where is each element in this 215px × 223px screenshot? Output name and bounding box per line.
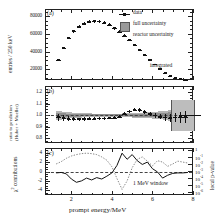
- axis-tick: [122, 9, 123, 12]
- x-tick-2: 6: [146, 196, 158, 202]
- axis-tick: [81, 193, 82, 196]
- axis-tick: [142, 78, 143, 81]
- axis-tick: [71, 148, 72, 151]
- axis-tick: [122, 78, 123, 81]
- axis-tick: [132, 86, 133, 89]
- axis-tick: [183, 78, 184, 81]
- axis-tick: [51, 78, 52, 81]
- x-tick-3: 8: [187, 196, 199, 202]
- axis-tick: [112, 141, 113, 144]
- axis-tick: [102, 193, 103, 196]
- axis-tick: [163, 78, 164, 81]
- axis-tick: [132, 78, 133, 81]
- axis-tick: [152, 78, 153, 81]
- axis-tick: [183, 193, 184, 196]
- axis-tick: [132, 193, 133, 196]
- axis-tick: [173, 86, 174, 89]
- axis-tick: [61, 9, 62, 12]
- axis-tick: [92, 9, 93, 12]
- axis-tick: [102, 86, 103, 89]
- axis-tick: [71, 86, 72, 89]
- axis-tick: [152, 86, 153, 89]
- axis-tick: [51, 148, 52, 151]
- panel-c-curves: [0, 0, 215, 223]
- axis-tick: [112, 193, 113, 196]
- axis-tick: [112, 78, 113, 81]
- axis-tick: [173, 148, 174, 151]
- axis-tick: [102, 9, 103, 12]
- axis-tick: [173, 141, 174, 144]
- axis-tick: [81, 141, 82, 144]
- axis-tick: [152, 141, 153, 144]
- axis-tick: [51, 193, 52, 196]
- axis-tick: [142, 141, 143, 144]
- axis-tick: [142, 86, 143, 89]
- axis-tick: [61, 86, 62, 89]
- axis-tick: [61, 78, 62, 81]
- axis-tick: [183, 148, 184, 151]
- axis-tick: [132, 148, 133, 151]
- axis-tick: [152, 193, 153, 196]
- axis-tick: [102, 141, 103, 144]
- axis-tick: [152, 148, 153, 151]
- axis-tick: [122, 148, 123, 151]
- window-annotation: 1 MeV window: [133, 180, 168, 186]
- axis-tick: [112, 148, 113, 151]
- axis-tick: [163, 141, 164, 144]
- axis-tick: [173, 193, 174, 196]
- axis-tick: [51, 86, 52, 89]
- axis-tick: [183, 141, 184, 144]
- x-tick-1: 4: [106, 196, 118, 202]
- axis-tick: [163, 9, 164, 12]
- axis-tick: [183, 86, 184, 89]
- axis-tick: [193, 191, 194, 195]
- axis-tick: [92, 78, 93, 81]
- axis-tick: [102, 148, 103, 151]
- axis-tick: [61, 141, 62, 144]
- axis-tick: [193, 9, 194, 13]
- axis-tick: [71, 78, 72, 81]
- axis-tick: [81, 86, 82, 89]
- axis-tick: [132, 9, 133, 12]
- axis-tick: [183, 9, 184, 12]
- axis-tick: [163, 193, 164, 196]
- axis-tick: [61, 148, 62, 151]
- axis-tick: [92, 141, 93, 144]
- axis-tick: [173, 9, 174, 12]
- axis-tick: [142, 9, 143, 12]
- figure-root: (a) entries / 250 keV 200004000060000800…: [0, 0, 215, 223]
- axis-tick: [193, 139, 194, 143]
- axis-tick: [81, 148, 82, 151]
- axis-tick: [92, 86, 93, 89]
- axis-tick: [142, 148, 143, 151]
- series-pvalue: [56, 153, 188, 189]
- axis-tick: [61, 193, 62, 196]
- axis-tick: [142, 193, 143, 196]
- axis-tick: [193, 148, 194, 152]
- axis-tick: [51, 141, 52, 144]
- axis-tick: [193, 76, 194, 80]
- axis-tick: [163, 148, 164, 151]
- x-axis-label: prompt energy/MeV: [69, 206, 126, 214]
- axis-tick: [173, 78, 174, 81]
- axis-tick: [92, 148, 93, 151]
- axis-tick: [112, 86, 113, 89]
- axis-tick: [81, 78, 82, 81]
- axis-tick: [102, 78, 103, 81]
- series-chi2: [56, 153, 188, 182]
- axis-tick: [193, 86, 194, 90]
- axis-tick: [112, 9, 113, 12]
- axis-tick: [122, 86, 123, 89]
- x-tick-0: 2: [65, 196, 77, 202]
- axis-tick: [122, 141, 123, 144]
- axis-tick: [122, 193, 123, 196]
- axis-tick: [71, 9, 72, 12]
- axis-tick: [163, 86, 164, 89]
- axis-tick: [92, 193, 93, 196]
- axis-tick: [132, 141, 133, 144]
- axis-tick: [81, 9, 82, 12]
- axis-tick: [71, 141, 72, 144]
- axis-tick: [51, 9, 52, 12]
- axis-tick: [152, 9, 153, 12]
- axis-tick: [71, 193, 72, 196]
